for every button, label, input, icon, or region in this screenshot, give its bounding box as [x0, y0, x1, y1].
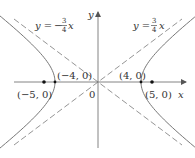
svg-text:3: 3 — [62, 17, 66, 25]
svg-text:4: 4 — [152, 26, 157, 34]
vertex-right-dot — [140, 81, 143, 84]
svg-text:x: x — [159, 20, 165, 31]
asymptote-negative-label: y = − 3 4 x — [34, 17, 74, 34]
focus-left-dot — [42, 80, 46, 84]
svg-text:y =: y = — [34, 20, 52, 31]
y-axis-label: y — [87, 9, 94, 20]
svg-text:4: 4 — [62, 26, 67, 34]
origin-label: 0 — [89, 89, 95, 100]
focus-right-label: (5, 0) — [145, 89, 172, 100]
focus-left-label: (−5, 0) — [17, 89, 52, 100]
svg-text:y =: y = — [132, 20, 150, 31]
x-axis-label: x — [178, 89, 184, 100]
svg-text:x: x — [68, 20, 74, 31]
hyperbola-diagram: (−5, 0) (−4, 0) (4, 0) (5, 0) x y 0 y = … — [0, 0, 195, 158]
svg-text:3: 3 — [152, 17, 156, 25]
vertex-right-label: (4, 0) — [119, 70, 146, 81]
vertex-left-dot — [54, 81, 57, 84]
asymptote-positive-label: y = 3 4 x — [132, 17, 165, 34]
focus-right-dot — [150, 80, 154, 84]
vertex-left-label: (−4, 0) — [57, 70, 92, 81]
